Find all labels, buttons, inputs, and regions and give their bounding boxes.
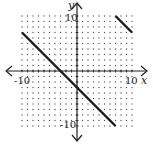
x-min-tick-label: -10 bbox=[14, 75, 30, 86]
coordinate-plane: -10 10 x 10 -10 y bbox=[0, 0, 153, 144]
axis-labels: -10 10 x 10 -10 y bbox=[14, 0, 148, 130]
y-min-tick-label: -10 bbox=[60, 119, 76, 130]
x-axis-label: x bbox=[141, 74, 148, 87]
x-max-tick-label: 10 bbox=[125, 75, 138, 86]
segment-1 bbox=[22, 33, 116, 127]
segment-2 bbox=[116, 16, 133, 33]
y-axis-label: y bbox=[67, 0, 75, 12]
y-max-tick-label: 10 bbox=[65, 12, 78, 23]
